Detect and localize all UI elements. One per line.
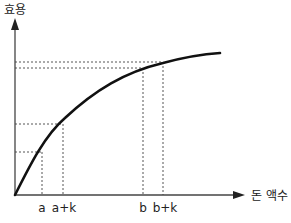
guide-lines: [15, 62, 163, 195]
axes: [15, 28, 235, 195]
tick-label-b: b: [139, 201, 147, 215]
tick-label-a: a: [38, 201, 45, 215]
tick-label-a-plus-k: a+k: [52, 201, 76, 215]
tick-label-b-plus-k: b+k: [153, 201, 178, 215]
x-axis-label: 돈 액수: [251, 189, 288, 203]
utility-curve: [15, 53, 220, 195]
x-axis-arrow-icon: [233, 191, 245, 199]
y-axis-arrow-icon: [11, 18, 19, 30]
utility-diagram: 효용 돈 액수 a a+k b b+k: [0, 0, 291, 223]
y-axis-label: 효용: [4, 3, 26, 17]
